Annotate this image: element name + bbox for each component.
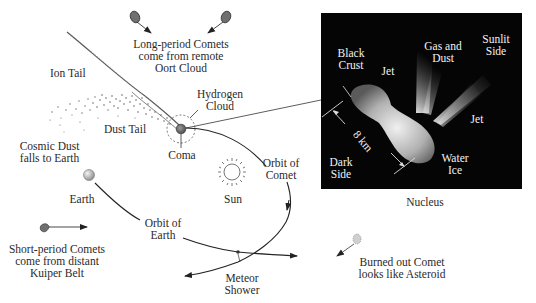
label-line: Kuiper Belt [2,267,112,279]
black-crust-label: Black Crust [331,47,371,71]
jet-upper-label: Jet [376,65,400,77]
gas-and-dust-label: Gas and Dust [418,40,468,64]
nucleus-caption: Nucleus [395,196,455,208]
sunlit-side-label: Sunlit Side [476,33,516,57]
short-period-comets-label: Short-period Comets come from distant Ku… [2,243,112,279]
burned-out-comet-label: Burned out Comet looks like Asteroid [354,256,450,280]
label-line: come from distant [2,255,112,267]
label-line: Water [435,152,475,164]
label-line: Meteor [220,272,264,284]
short-period-comet-icon [40,224,87,232]
nucleus-inset: Black Crust Jet Gas and Dust Sunlit Side… [321,13,522,189]
long-period-comet-left-icon [128,10,151,33]
label-line: Dark [321,156,361,168]
sun-icon [218,158,246,186]
label-line: Shower [220,284,264,296]
dark-side-label: Dark Side [321,156,361,180]
label-line: Gas and [418,40,468,52]
long-period-comets-label: Long-period Comets come from remote Oort… [126,38,236,74]
label-line: Orbit of [138,217,188,229]
label-line: Oort Cloud [126,62,236,74]
sun-label: Sun [219,193,247,205]
label-line: Long-period Comets [126,38,236,50]
cosmic-dust-label: Cosmic Dust falls to Earth [12,140,87,164]
orbit-of-comet-label: Orbit of Comet [256,157,306,181]
water-ice-label: Water Ice [435,152,475,176]
label-line: Black [331,47,371,59]
meteor-shower-icon [236,250,240,262]
earth-icon [84,170,95,181]
meteor-shower-label: Meteor Shower [220,272,264,296]
label-line: Cosmic Dust [12,140,87,152]
earth-orbit-path [95,183,297,256]
label-line: Comet [256,169,306,181]
label-line: looks like Asteroid [354,268,450,280]
long-period-comet-right-icon [208,10,233,33]
burned-out-comet-icon [337,234,361,256]
label-line: Cloud [190,100,250,112]
coma-icon [167,110,198,148]
label-line: falls to Earth [12,152,87,164]
orbit-of-earth-label: Orbit of Earth [138,217,188,241]
jet-right-label: Jet [465,113,489,125]
label-line: Short-period Comets [2,243,112,255]
label-line: Side [476,45,516,57]
label-line: Crust [331,59,371,71]
label-line: Hydrogen [190,88,250,100]
hydrogen-cloud-label: Hydrogen Cloud [190,88,250,112]
ion-tail-label: Ion Tail [50,67,86,79]
label-line: Burned out Comet [354,256,450,268]
label-line: Orbit of [256,157,306,169]
dust-tail-label: Dust Tail [104,123,146,135]
label-line: Earth [138,229,188,241]
label-line: Ice [435,164,475,176]
earth-label: Earth [62,193,102,205]
label-line: come from remote [126,50,236,62]
coma-label: Coma [164,149,200,161]
label-line: Dust [418,52,468,64]
label-line: Side [321,168,361,180]
label-line: Sunlit [476,33,516,45]
comet-diagram: Long-period Comets come from remote Oort… [0,0,536,303]
